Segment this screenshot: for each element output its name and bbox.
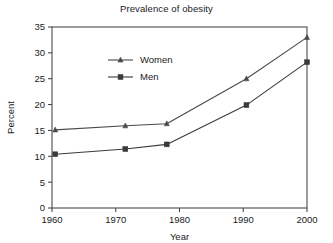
y-tick-label: 0 xyxy=(40,202,45,213)
x-axis-title: Year xyxy=(170,231,189,242)
data-point-marker xyxy=(305,60,310,65)
y-tick-label: 30 xyxy=(34,47,45,58)
series-line-women xyxy=(55,37,307,130)
data-point-marker xyxy=(53,152,58,157)
data-point-marker xyxy=(164,142,169,147)
chart-plot-area: 05101520253035 19601970198019902000 Wome… xyxy=(0,0,333,243)
y-axis-ticks: 05101520253035 xyxy=(34,21,52,213)
y-tick-label: 25 xyxy=(34,73,45,84)
data-point-marker xyxy=(244,76,249,81)
chart-legend: WomenMen xyxy=(108,54,173,82)
x-tick-label: 1990 xyxy=(233,214,254,225)
data-point-marker xyxy=(305,34,310,39)
obesity-prevalence-chart: Prevalence of obesity 05101520253035 196… xyxy=(0,0,333,243)
plot-frame xyxy=(52,27,307,208)
series-line-men xyxy=(55,62,307,154)
y-tick-label: 15 xyxy=(34,125,45,136)
y-tick-label: 5 xyxy=(40,177,45,188)
data-point-marker xyxy=(118,75,123,80)
y-tick-label: 20 xyxy=(34,99,45,110)
x-tick-label: 1960 xyxy=(41,214,62,225)
legend-label-women: Women xyxy=(140,54,173,65)
y-axis-title: Percent xyxy=(5,101,16,134)
data-series-group xyxy=(53,34,310,156)
data-point-marker xyxy=(123,147,128,152)
x-tick-label: 2000 xyxy=(296,214,317,225)
x-axis-ticks: 19601970198019902000 xyxy=(41,208,317,225)
x-tick-label: 1970 xyxy=(105,214,126,225)
x-tick-label: 1980 xyxy=(169,214,190,225)
y-tick-label: 35 xyxy=(34,21,45,32)
y-tick-label: 10 xyxy=(34,151,45,162)
data-point-marker xyxy=(244,103,249,108)
legend-label-men: Men xyxy=(140,71,158,82)
